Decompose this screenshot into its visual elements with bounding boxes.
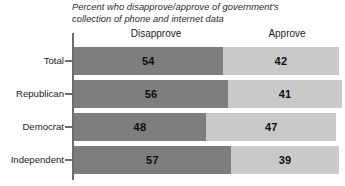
- bar-segment-approve: 42: [223, 47, 339, 75]
- bar-value-approve: 41: [279, 88, 292, 100]
- axis-tick: [65, 159, 72, 161]
- bar-segment-disapprove: 56: [74, 80, 229, 108]
- row-label-democrat: Democrat: [0, 113, 64, 141]
- bar-segment-approve: 41: [228, 80, 341, 108]
- bar-segment-approve: 47: [206, 113, 336, 141]
- row-label-republican: Republican: [0, 80, 64, 108]
- plot-area: Total5442Republican5641Democrat4847Indep…: [0, 0, 345, 186]
- axis-tick: [65, 60, 72, 62]
- bar-segment-disapprove: 54: [74, 47, 223, 75]
- bar-value-approve: 47: [265, 121, 278, 133]
- stacked-bar: 5641: [74, 80, 342, 108]
- bar-value-disapprove: 56: [145, 88, 158, 100]
- stacked-bar: 5739: [74, 146, 339, 174]
- bar-value-disapprove: 57: [146, 154, 159, 166]
- stacked-bar: 4847: [74, 113, 337, 141]
- bar-value-approve: 39: [279, 154, 292, 166]
- bar-value-disapprove: 48: [134, 121, 147, 133]
- axis-tick: [65, 93, 72, 95]
- row-label-independent: Independent: [0, 146, 64, 174]
- bar-segment-approve: 39: [231, 146, 339, 174]
- stacked-bar-chart: Percent who disapprove/approve of govern…: [0, 0, 345, 186]
- bar-value-approve: 42: [275, 55, 288, 67]
- stacked-bar: 5442: [74, 47, 339, 75]
- bar-value-disapprove: 54: [142, 55, 155, 67]
- bar-segment-disapprove: 48: [74, 113, 207, 141]
- axis-tick: [65, 126, 72, 128]
- row-label-total: Total: [0, 47, 64, 75]
- bar-segment-disapprove: 57: [74, 146, 232, 174]
